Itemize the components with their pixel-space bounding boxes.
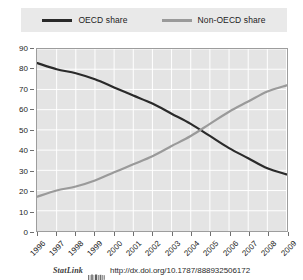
line-swatch-icon bbox=[42, 19, 72, 22]
chart-legend: OECD share Non-OECD share bbox=[21, 8, 287, 32]
y-tick-mark bbox=[30, 130, 34, 131]
y-tick-mark bbox=[30, 171, 34, 172]
y-tick-label: 20 bbox=[19, 187, 28, 196]
y-tick-mark bbox=[30, 48, 34, 49]
legend-item-oecd-share: OECD share bbox=[42, 15, 127, 25]
line-swatch-icon bbox=[162, 19, 192, 22]
statlink-url: http://dx.doi.org/10.1787/888932506172 bbox=[110, 266, 250, 275]
y-tick-label: 90 bbox=[19, 44, 28, 53]
y-tick-mark bbox=[30, 89, 34, 90]
x-tick-mark bbox=[172, 232, 173, 236]
y-tick-label: 30 bbox=[19, 166, 28, 175]
x-tick-mark bbox=[268, 232, 269, 236]
y-tick-mark bbox=[30, 212, 34, 213]
series-line-non-oecd-share bbox=[37, 85, 286, 196]
x-tick-mark bbox=[191, 232, 192, 236]
legend-label-non-oecd-share: Non-OECD share bbox=[198, 15, 266, 25]
y-axis: 0102030405060708090 bbox=[0, 48, 34, 232]
y-tick-label: 70 bbox=[19, 84, 28, 93]
x-tick-mark bbox=[114, 232, 115, 236]
x-tick-mark bbox=[37, 232, 38, 236]
x-tick-mark bbox=[230, 232, 231, 236]
y-tick-label: 40 bbox=[19, 146, 28, 155]
x-tick-mark bbox=[210, 232, 211, 236]
x-tick-mark bbox=[133, 232, 134, 236]
y-tick-label: 0 bbox=[24, 228, 28, 237]
legend-label-oecd-share: OECD share bbox=[78, 15, 127, 25]
series-line-oecd-share bbox=[37, 63, 286, 174]
y-tick-mark bbox=[30, 191, 34, 192]
legend-item-non-oecd-share: Non-OECD share bbox=[162, 15, 266, 25]
x-tick-mark bbox=[152, 232, 153, 236]
statlink-label: StatLink bbox=[53, 266, 83, 275]
x-tick-mark bbox=[94, 232, 95, 236]
y-tick-label: 60 bbox=[19, 105, 28, 114]
x-tick-mark bbox=[249, 232, 250, 236]
data-series-layer bbox=[37, 49, 287, 231]
x-tick-mark bbox=[288, 232, 289, 236]
plot-area bbox=[36, 48, 288, 232]
y-tick-label: 50 bbox=[19, 125, 28, 134]
x-tick-mark bbox=[56, 232, 57, 236]
y-tick-label: 10 bbox=[19, 207, 28, 216]
y-tick-mark bbox=[30, 232, 34, 233]
y-tick-label: 80 bbox=[19, 64, 28, 73]
chart-container: 0102030405060708090 19961997199819992000… bbox=[0, 38, 303, 238]
x-tick-mark bbox=[75, 232, 76, 236]
statlink-barcode-icon bbox=[88, 267, 105, 274]
y-tick-mark bbox=[30, 68, 34, 69]
y-tick-mark bbox=[30, 150, 34, 151]
y-tick-mark bbox=[30, 109, 34, 110]
statlink-footer: StatLink http://dx.doi.org/10.1787/88893… bbox=[0, 262, 303, 278]
